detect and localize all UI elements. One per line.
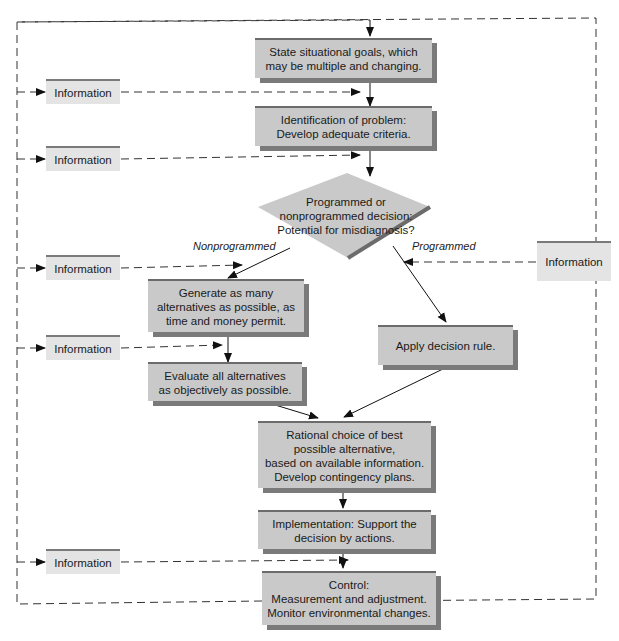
information-box: Information bbox=[46, 335, 120, 360]
information-box: Information bbox=[46, 79, 120, 104]
step-implementation: Implementation: Support the decision by … bbox=[258, 510, 431, 549]
information-box: Information bbox=[537, 241, 611, 281]
step-apply-decision-rule: Apply decision rule. bbox=[378, 325, 513, 365]
step-evaluate-alternatives: Evaluate all alternatives as objectively… bbox=[148, 362, 302, 401]
step-decision-type: Programmed or nonprogrammed decision: Po… bbox=[268, 195, 424, 237]
information-box: Information bbox=[46, 146, 120, 171]
step-state-goals: State situational goals, which may be mu… bbox=[255, 38, 432, 78]
step-rational-choice: Rational choice of best possible alterna… bbox=[258, 421, 431, 488]
information-box: Information bbox=[46, 549, 120, 574]
step-identify-problem: Identification of problem: Develop adequ… bbox=[255, 106, 432, 146]
step-control: Control: Measurement and adjustment. Mon… bbox=[262, 571, 436, 625]
step-generate-alternatives: Generate as many alternatives as possibl… bbox=[148, 279, 304, 332]
branch-label-programmed: Programmed bbox=[412, 240, 476, 252]
information-box: Information bbox=[46, 255, 120, 280]
branch-label-nonprogrammed: Nonprogrammed bbox=[193, 240, 276, 252]
